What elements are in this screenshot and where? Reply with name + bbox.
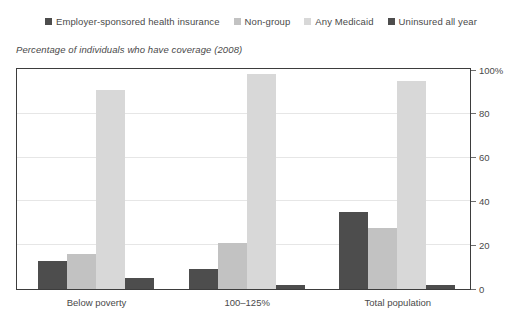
bar[interactable] — [218, 243, 247, 289]
y-axis-label: 80 — [479, 108, 490, 119]
chart-legend: Employer-sponsored health insuranceNon-g… — [0, 13, 522, 29]
legend-swatch-icon — [45, 18, 52, 25]
bar[interactable] — [247, 74, 276, 289]
y-axis-label: 100% — [479, 64, 503, 75]
bar[interactable] — [276, 285, 305, 289]
legend-item-2[interactable]: Any Medicaid — [304, 16, 373, 27]
legend-label: Non-group — [245, 16, 291, 27]
legend-swatch-icon — [388, 18, 395, 25]
legend-label: Employer-sponsored health insurance — [56, 16, 220, 27]
legend-item-3[interactable]: Uninsured all year — [388, 16, 477, 27]
y-axis-tick — [471, 70, 476, 71]
plot-area — [16, 68, 471, 290]
chart-subtitle: Percentage of individuals who have cover… — [16, 44, 242, 55]
y-axis-label: 0 — [479, 283, 484, 294]
x-axis-category-label: 100–125% — [224, 297, 269, 308]
y-axis-label: 60 — [479, 152, 490, 163]
y-axis-label: 20 — [479, 239, 490, 250]
y-axis-label: 40 — [479, 195, 490, 206]
x-axis-category-label: Below poverty — [67, 297, 127, 308]
y-axis-tick — [471, 113, 476, 114]
legend-label: Any Medicaid — [315, 16, 373, 27]
bar[interactable] — [339, 212, 368, 289]
bar[interactable] — [67, 254, 96, 289]
legend-item-0[interactable]: Employer-sponsored health insurance — [45, 16, 220, 27]
y-axis-tick — [471, 289, 476, 290]
y-axis-tick — [471, 157, 476, 158]
y-axis-tick — [471, 245, 476, 246]
bar[interactable] — [189, 269, 218, 289]
bar[interactable] — [426, 285, 455, 289]
bar[interactable] — [397, 81, 426, 289]
plot-inner — [17, 69, 470, 289]
x-axis-category-label: Total population — [365, 297, 432, 308]
legend-label: Uninsured all year — [399, 16, 477, 27]
legend-swatch-icon — [304, 18, 311, 25]
bar[interactable] — [125, 278, 154, 289]
legend-swatch-icon — [234, 18, 241, 25]
legend-item-1[interactable]: Non-group — [234, 16, 291, 27]
bar[interactable] — [38, 261, 67, 289]
y-axis-tick — [471, 201, 476, 202]
bar[interactable] — [96, 90, 125, 289]
bar[interactable] — [368, 228, 397, 289]
